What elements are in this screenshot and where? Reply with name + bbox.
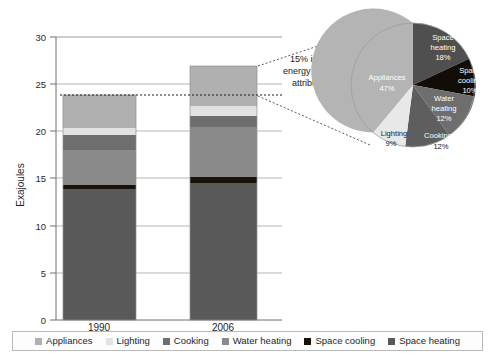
pie-label-space-heating-name2: heating [431,43,456,52]
pie-label-lighting-pct: 9% [386,139,397,148]
pie-label-space-heating-pct: 18% [435,53,450,62]
stacked-bar-and-pie-figure: 30 25 20 15 10 5 0 Exajoules [0,0,498,359]
legend-label-space-cooling: Space cooling [315,336,375,346]
y-tick-20: 20 [35,126,46,137]
y-axis [50,37,56,320]
y-tick-30: 30 [35,32,46,43]
legend-item-space-heating[interactable]: Space heating [388,336,460,346]
legend-item-water-heating[interactable]: Water heating [222,336,292,346]
legend-item-appliances[interactable]: Appliances [35,336,92,346]
legend-swatch-lighting [106,338,113,345]
legend-label-appliances: Appliances [46,336,92,346]
bar-2006-water-heating[interactable] [190,126,257,177]
pie-label-appliances-pct: 47% [379,84,394,93]
bar-2006-appliances[interactable] [190,66,257,106]
legend-label-lighting: Lighting [117,336,150,346]
legend-swatch-cooking [163,338,170,345]
pie-label-water-heating-name: Water [434,94,454,103]
pie-label-water-heating-name2: heating [432,104,457,113]
pie-label-space-heating-name: Space [432,33,454,42]
y-axis-title: Exajoules [15,163,26,206]
pie-label-space-cooling-name2: cooling [458,76,482,85]
legend-swatch-space-cooling [304,338,311,345]
y-tick-5: 5 [41,268,46,279]
y-tick-15: 15 [35,173,46,184]
bar-1990-space-heating[interactable] [63,188,136,320]
bar-1990-cooking[interactable] [63,134,136,150]
bar-1990-water-heating[interactable] [63,149,136,185]
pie-label-water-heating-pct: 12% [436,114,451,123]
pie-label-lighting-name: Lighting [381,129,408,138]
legend-label-space-heating: Space heating [399,336,460,346]
pie-label-appliances-name: Appliances [368,73,405,82]
chart-canvas: 30 25 20 15 10 5 0 Exajoules [0,0,498,359]
bar-1990[interactable] [63,95,136,320]
y-tick-10: 10 [35,221,46,232]
y-tick-0: 0 [41,315,46,326]
bar-2006-space-cooling[interactable] [190,176,257,183]
legend-swatch-appliances [35,338,42,345]
bar-2006[interactable] [190,66,257,320]
legend-label-water-heating: Water heating [233,336,292,346]
legend-swatch-water-heating [222,338,229,345]
pie-label-space-cooling-pct: 10% [462,86,477,95]
bar-2006-cooking[interactable] [190,115,257,127]
legend-item-space-cooling[interactable]: Space cooling [304,336,375,346]
legend-label-cooking: Cooking [174,336,209,346]
bar-1990-appliances[interactable] [63,95,136,128]
bar-2006-lighting[interactable] [190,105,257,116]
chart-legend: Appliances Lighting Cooking Water heatin… [12,331,483,351]
pie-label-space-cooling-name: Space [459,66,481,75]
pie-label-cooking-pct: 12% [433,142,448,151]
y-tick-25: 25 [35,79,46,90]
bar-2006-space-heating[interactable] [190,182,257,320]
legend-swatch-space-heating [388,338,395,345]
legend-item-cooking[interactable]: Cooking [163,336,209,346]
bar-1990-lighting[interactable] [63,127,136,135]
legend-item-lighting[interactable]: Lighting [106,336,150,346]
pie-label-cooking-name: Cooking [424,131,452,140]
